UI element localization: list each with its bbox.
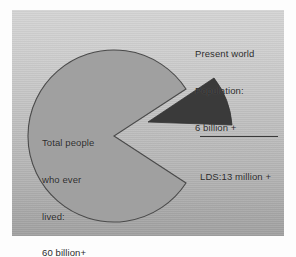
label-total-people-ever-lived: Total people who ever lived: 60 billion+ [42, 113, 94, 257]
label-total-people-line2: who ever [42, 174, 94, 186]
label-present-world-line3: 6 billion + [195, 122, 254, 134]
label-present-world-line1: Present world [195, 48, 254, 60]
label-lds-line1: LDS:13 million + [200, 171, 271, 183]
figure-root: Present world Population: 6 billion + To… [0, 0, 296, 257]
label-total-people-line4: 60 billion+ [42, 247, 94, 257]
label-lds-members: LDS:13 million + [200, 147, 271, 208]
label-present-world-population: Present world Population: 6 billion + [195, 24, 254, 158]
label-present-world-line2: Population: [195, 85, 254, 97]
label-total-people-line3: lived: [42, 211, 94, 223]
label-total-people-line1: Total people [42, 137, 94, 149]
